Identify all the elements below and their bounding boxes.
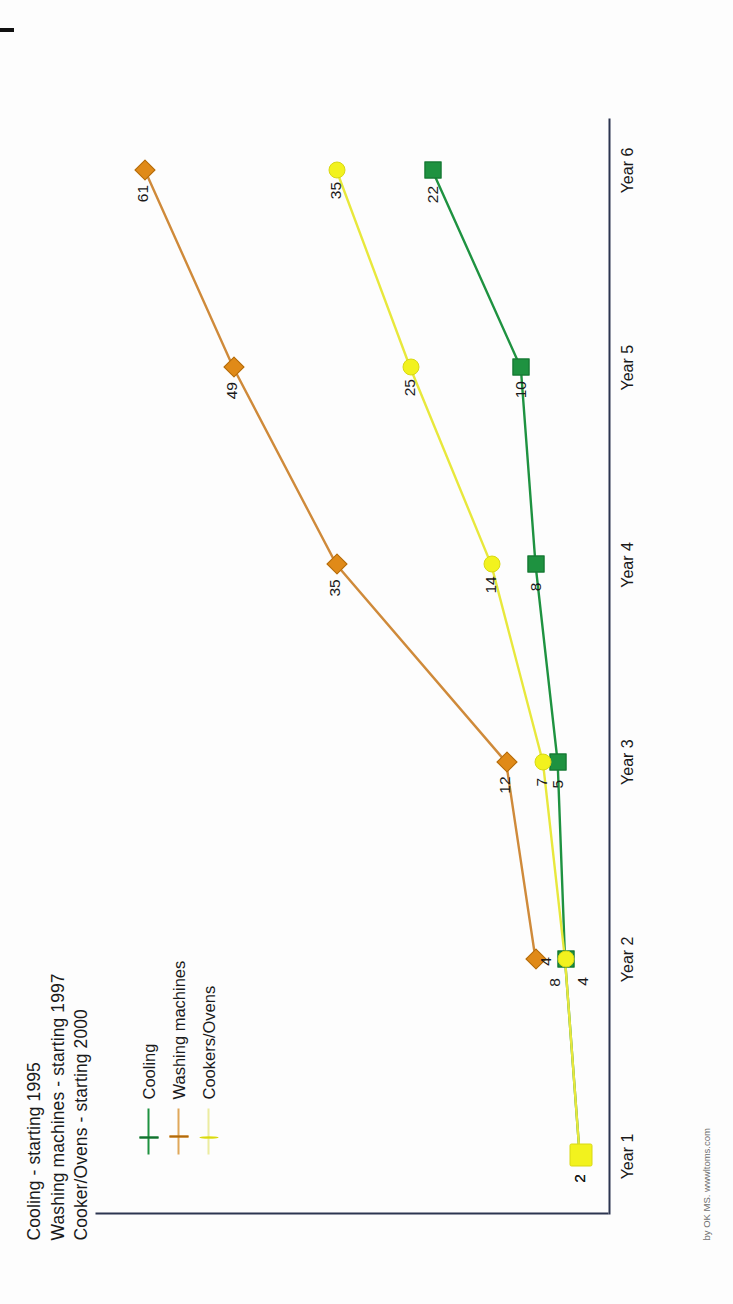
x-axis-label: Year 1 xyxy=(618,1133,636,1179)
point-value-label: 14 xyxy=(481,576,499,593)
x-axis-label: Year 4 xyxy=(618,542,636,588)
point-value-label: 25 xyxy=(400,379,418,396)
credit-text: by OK MS. wwwltoms.com xyxy=(700,1128,711,1240)
point-value-label: 7 xyxy=(532,777,550,786)
point-value-label: 35 xyxy=(326,181,344,198)
square-marker xyxy=(512,358,529,375)
square-marker xyxy=(527,555,544,572)
point-value-label: 2 xyxy=(570,1174,588,1183)
circle-marker xyxy=(328,161,345,178)
point-value-label: 8 xyxy=(526,582,544,591)
x-axis-label: Year 6 xyxy=(618,147,636,193)
point-value-label: 10 xyxy=(511,381,529,398)
circle-marker xyxy=(483,555,500,572)
title-line-1: Cooling - starting 1995 xyxy=(22,973,46,1240)
point-value-label: 49 xyxy=(222,382,240,399)
x-axis-label: Year 2 xyxy=(618,936,636,982)
circle-marker xyxy=(557,950,574,967)
chart-title-block: Cooling - starting 1995 Washing machines… xyxy=(22,973,93,1240)
point-value-label: 22 xyxy=(423,185,441,202)
point-value-label: 8 xyxy=(545,978,563,987)
point-value-label: 35 xyxy=(325,579,343,596)
circle-marker xyxy=(534,753,551,770)
circle-marker xyxy=(569,1143,592,1166)
title-line-2: Washing machines - starting 1997 xyxy=(46,973,70,1240)
point-value-label: 61 xyxy=(133,184,151,201)
point-value-label: 4 xyxy=(573,977,591,986)
point-value-label: 4 xyxy=(536,957,554,966)
plot-area: 24581022812354961247142535 Year 1Year 2Y… xyxy=(95,118,608,1214)
chart-stage: Cooling - starting 1995 Washing machines… xyxy=(0,0,733,1304)
circle-marker xyxy=(402,358,419,375)
x-axis-label: Year 3 xyxy=(618,739,636,785)
title-line-3: Cooker/Ovens - starting 2000 xyxy=(69,973,93,1240)
square-marker xyxy=(549,753,566,770)
series-lines xyxy=(95,118,608,1214)
x-axis-label: Year 5 xyxy=(618,344,636,390)
square-marker xyxy=(424,161,441,178)
point-value-label: 12 xyxy=(495,776,513,793)
